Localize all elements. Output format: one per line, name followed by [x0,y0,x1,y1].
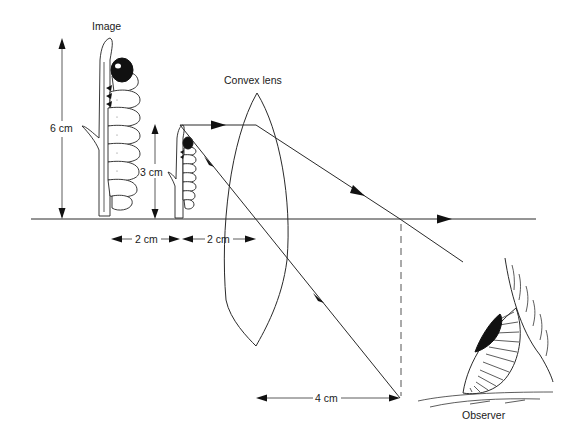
object-to-lens-dimension: 2 cm [182,233,256,245]
observer-label: Observer [462,409,506,421]
ray-arrow-icon [350,185,365,196]
ray-through-lens [180,125,400,398]
object-caterpillar-body [183,147,196,209]
image-caterpillar-head [111,58,133,82]
lens-ray-diagram: Image 6 cm 3 cm Convex len [0,0,572,442]
distance-label-2: 2 cm [207,233,230,245]
object-height-dimension: 3 cm [140,124,163,219]
distance-label-1: 2 cm [135,233,158,245]
lens-to-focus-dimension: 4 cm [256,392,400,404]
virtual-image [82,38,140,216]
object-height-label: 3 cm [140,166,163,178]
pupil [475,314,502,352]
object-twig [168,125,184,218]
ray-arrow-icon [204,156,214,167]
axis-arrow-icon [437,215,452,224]
distance-label-3: 4 cm [315,392,338,404]
image-height-label: 6 cm [50,122,73,134]
ray-arrow-icon [211,121,226,130]
observer-eye [418,258,553,407]
image-height-dimension: 6 cm [50,38,73,219]
image-caterpillar-body [108,72,140,210]
lens-label: Convex lens [224,74,282,86]
image-caterpillar-legs [106,85,112,107]
image-label: Image [92,20,121,32]
image-to-object-dimension: 2 cm [111,233,180,245]
